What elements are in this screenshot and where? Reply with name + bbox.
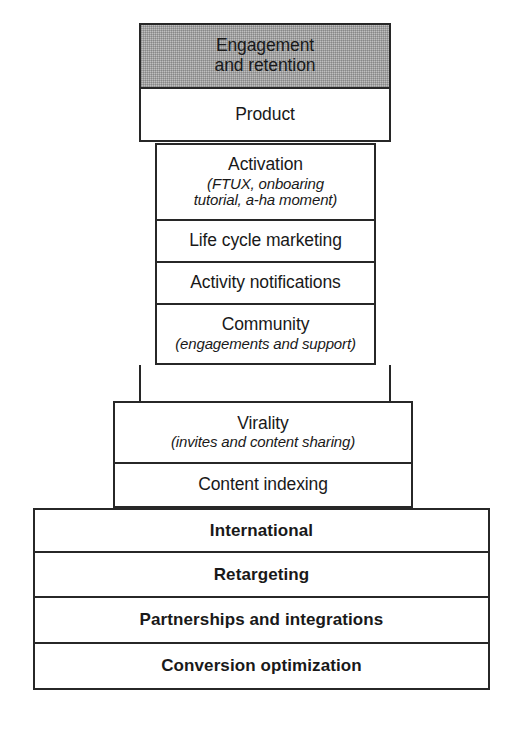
level-content-indexing: Content indexing: [113, 464, 413, 508]
level-community-label: Community: [222, 315, 310, 335]
level-community-sub: (engagements and support): [175, 336, 356, 353]
growth-funnel-diagram: Engagement and retention Product Activat…: [0, 0, 515, 730]
level-engagement-label-line2: and retention: [215, 56, 316, 76]
level-virality-sub-line1: (invites and content sharing): [171, 434, 355, 451]
level-conversion-label: Conversion optimization: [161, 656, 362, 675]
level-community: Community (engagements and support): [155, 305, 376, 365]
level-community-sub-line1: (engagements and support): [175, 336, 356, 353]
level-retargeting: Retargeting: [33, 553, 490, 598]
level-activation: Activation (FTUX, onboaring tutorial, a-…: [155, 143, 376, 221]
level-product: Product: [139, 89, 391, 142]
level-virality: Virality (invites and content sharing): [113, 401, 413, 464]
level-partnerships-and-integrations: Partnerships and integrations: [33, 598, 490, 644]
level-engagement-label-line1: Engagement: [216, 36, 314, 56]
level-conversion-optimization: Conversion optimization: [33, 644, 490, 690]
level-virality-sub: (invites and content sharing): [171, 434, 355, 451]
level-partnerships-label: Partnerships and integrations: [140, 610, 384, 629]
level-activation-sub-line1: (FTUX, onboaring: [194, 176, 337, 193]
level-activation-label: Activation: [228, 155, 303, 175]
level-activity-notifications: Activity notifications: [155, 263, 376, 305]
level-content-indexing-label: Content indexing: [198, 475, 328, 495]
level-international: International: [33, 508, 490, 553]
level-international-label: International: [210, 521, 313, 540]
figure-caption: [33, 716, 490, 728]
level-engagement-and-retention: Engagement and retention: [139, 23, 391, 89]
level-life-cycle-marketing: Life cycle marketing: [155, 221, 376, 263]
level-retargeting-label: Retargeting: [214, 565, 310, 584]
level-activation-sub: (FTUX, onboaring tutorial, a-ha moment): [194, 176, 337, 210]
level-activation-sub-line2: tutorial, a-ha moment): [194, 192, 337, 209]
level-life-cycle-marketing-label: Life cycle marketing: [189, 231, 342, 251]
level-virality-label: Virality: [237, 414, 288, 434]
level-product-label: Product: [235, 105, 295, 125]
level-activity-notifications-label: Activity notifications: [190, 273, 341, 293]
